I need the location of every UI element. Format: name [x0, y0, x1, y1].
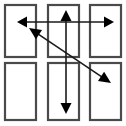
rect-bottom-center: [48, 63, 79, 120]
diagram-canvas: [0, 0, 126, 126]
rect-top-center: [48, 5, 79, 57]
rect-top-right: [90, 5, 121, 57]
rect-bottom-left: [5, 63, 36, 120]
grid-arrows-diagram: [0, 0, 126, 126]
